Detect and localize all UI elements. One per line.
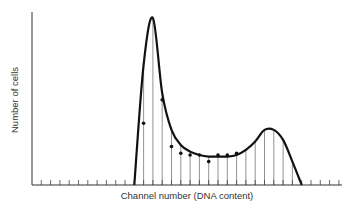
x-axis-label: Channel number (DNA content) — [0, 190, 356, 201]
dna-histogram-chart — [0, 0, 356, 212]
data-points — [142, 98, 239, 163]
channel-lines — [144, 18, 293, 185]
x-axis-ticks — [41, 180, 339, 185]
